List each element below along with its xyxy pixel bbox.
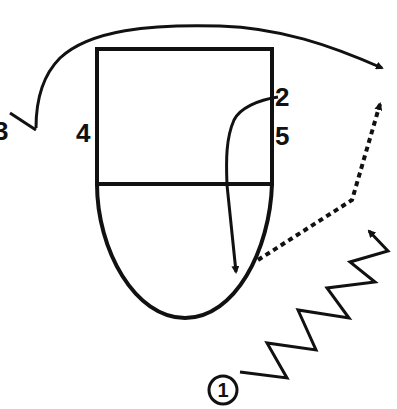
player-1-marker: 1: [209, 376, 237, 404]
player-4-label: 4: [76, 118, 91, 148]
player-2-label: 2: [275, 82, 289, 112]
player-1-label: 1: [217, 379, 228, 401]
player-3-label: 3: [0, 116, 8, 146]
court-box: [97, 49, 272, 184]
dribble-1-path: [240, 231, 388, 378]
player-5-label: 5: [275, 121, 289, 151]
cut-3-path: [36, 26, 382, 128]
cut-3-start-mark: [10, 113, 36, 130]
play-diagram: 3 4 2 5 1: [0, 0, 397, 409]
court: [97, 49, 272, 318]
court-bottom-arc: [97, 184, 272, 318]
